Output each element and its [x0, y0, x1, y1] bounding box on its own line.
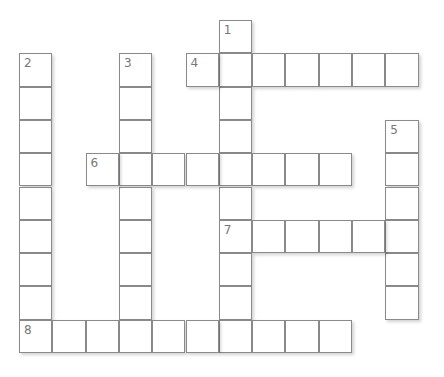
grid-cell[interactable]: 1 — [219, 20, 252, 53]
grid-cell[interactable] — [319, 220, 352, 253]
grid-cell[interactable] — [152, 153, 185, 186]
clue-number: 2 — [24, 57, 32, 69]
grid-cell[interactable] — [385, 253, 418, 286]
grid-cell[interactable] — [119, 153, 152, 186]
clue-number: 8 — [24, 324, 32, 336]
grid-cell[interactable] — [252, 220, 285, 253]
grid-cell[interactable] — [119, 253, 152, 286]
grid-cell[interactable]: 4 — [186, 53, 219, 86]
grid-cell[interactable] — [219, 87, 252, 120]
grid-cell[interactable] — [19, 286, 52, 319]
grid-cell[interactable] — [119, 120, 152, 153]
grid-cell[interactable] — [119, 87, 152, 120]
grid-cell[interactable] — [285, 220, 318, 253]
grid-cell[interactable] — [219, 120, 252, 153]
grid-cell[interactable] — [319, 320, 352, 353]
grid-cell[interactable] — [52, 320, 85, 353]
clue-number: 4 — [191, 57, 199, 69]
clue-number: 7 — [224, 224, 232, 236]
grid-cell[interactable] — [219, 53, 252, 86]
grid-cell[interactable] — [352, 53, 385, 86]
grid-cell[interactable] — [19, 120, 52, 153]
grid-cell[interactable] — [119, 187, 152, 220]
grid-cell[interactable] — [219, 153, 252, 186]
grid-cell[interactable] — [152, 320, 185, 353]
grid-cell[interactable] — [19, 187, 52, 220]
grid-cell[interactable] — [252, 153, 285, 186]
grid-cell[interactable] — [119, 320, 152, 353]
grid-cell[interactable] — [385, 187, 418, 220]
clue-number: 6 — [91, 157, 99, 169]
grid-cell[interactable] — [19, 220, 52, 253]
grid-cell[interactable] — [186, 153, 219, 186]
clue-number: 1 — [224, 24, 232, 36]
grid-cell[interactable] — [285, 153, 318, 186]
grid-cell[interactable] — [385, 153, 418, 186]
grid-cell[interactable] — [219, 286, 252, 319]
clue-number: 3 — [124, 57, 132, 69]
clue-number: 5 — [390, 124, 398, 136]
grid-cell[interactable]: 6 — [86, 153, 119, 186]
grid-cell[interactable] — [219, 320, 252, 353]
grid-cell[interactable]: 2 — [19, 53, 52, 86]
grid-cell[interactable]: 5 — [385, 120, 418, 153]
grid-cell[interactable] — [285, 320, 318, 353]
grid-cell[interactable] — [319, 53, 352, 86]
grid-cell[interactable] — [385, 53, 418, 86]
grid-cell[interactable] — [186, 320, 219, 353]
grid-cell[interactable] — [319, 153, 352, 186]
grid-cell[interactable] — [19, 87, 52, 120]
grid-cell[interactable] — [385, 286, 418, 319]
grid-cell[interactable] — [352, 220, 385, 253]
grid-cell[interactable]: 8 — [19, 320, 52, 353]
grid-cell[interactable]: 7 — [219, 220, 252, 253]
grid-cell[interactable] — [119, 286, 152, 319]
crossword-grid: 17283456 — [0, 0, 444, 377]
grid-cell[interactable] — [219, 253, 252, 286]
grid-cell[interactable] — [19, 253, 52, 286]
grid-cell[interactable] — [252, 53, 285, 86]
grid-cell[interactable] — [86, 320, 119, 353]
grid-cell[interactable] — [285, 53, 318, 86]
grid-cell[interactable] — [219, 187, 252, 220]
grid-cell[interactable] — [252, 320, 285, 353]
grid-cell[interactable] — [385, 220, 418, 253]
grid-cell[interactable]: 3 — [119, 53, 152, 86]
grid-cell[interactable] — [19, 153, 52, 186]
grid-cell[interactable] — [119, 220, 152, 253]
